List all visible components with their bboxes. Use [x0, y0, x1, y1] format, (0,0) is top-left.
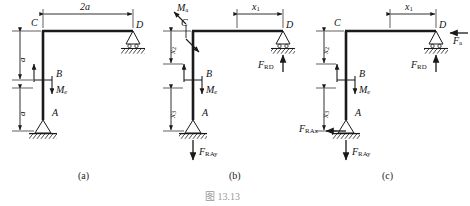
- joint-label-c-a: C: [31, 18, 38, 28]
- load-label-fray-b: FRAy: [199, 147, 217, 158]
- joint-label-a-c: A: [355, 108, 361, 118]
- dim-label-a-lower: a: [18, 112, 27, 117]
- joint-label-b-c: B: [359, 69, 365, 79]
- dim-x3-c: [316, 88, 337, 131]
- dim-label-2a: 2a: [80, 2, 90, 12]
- pin-support-a: [179, 120, 207, 139]
- joint-label-b-b: B: [206, 69, 212, 79]
- joint-label-c-c: C: [334, 18, 341, 28]
- pin-support-a: [332, 120, 360, 139]
- panel-c-graphics: [316, 9, 468, 160]
- joint-label-d-b: D: [286, 20, 293, 30]
- joint-label-d-a: D: [136, 20, 143, 30]
- joint-label-a-b: A: [202, 108, 208, 118]
- dim-x1-c: [390, 9, 436, 28]
- panel-caption-c: (c): [382, 170, 393, 181]
- load-label-fray-c: FRAy: [352, 147, 370, 158]
- load-label-frd-c: FRD: [411, 60, 427, 71]
- load-label-frd-b: FRD: [258, 60, 274, 71]
- figure-13-13: C D B A 2a a a Me C D B A Ma x1 x2 x3 Me…: [0, 0, 470, 206]
- load-label-me-a: Me: [56, 85, 67, 96]
- load-label-me-b: Me: [206, 85, 217, 96]
- panel-b-graphics: [163, 9, 295, 160]
- load-label-frax-c: FRAx: [299, 124, 318, 135]
- joint-label-d-c: D: [439, 20, 446, 30]
- joint-label-b-a: B: [56, 69, 62, 79]
- dim-label-x1-b: x1: [252, 2, 260, 13]
- figure-caption: 图 13.13: [205, 188, 240, 203]
- roller-support-d: [424, 31, 448, 54]
- panel-caption-b: (b): [229, 170, 241, 181]
- dim-a-lower: [12, 88, 34, 131]
- joint-label-a-a: A: [52, 108, 58, 118]
- roller-support-d: [121, 31, 145, 54]
- load-label-me-c: Me: [359, 85, 370, 96]
- dim-x1-b: [237, 9, 283, 28]
- load-label-fa-c: Fa: [453, 36, 462, 47]
- panel-a-graphics: [12, 9, 145, 139]
- dim-label-x2-b: x2: [168, 47, 177, 54]
- dim-label-x1-c: x1: [405, 2, 413, 13]
- load-label-ma-b: Ma: [177, 3, 188, 14]
- dim-label-x3-b: x3: [168, 111, 177, 118]
- dim-x3-b: [163, 88, 184, 131]
- dim-label-x3-c: x3: [321, 111, 330, 118]
- dim-a-upper: [12, 31, 41, 80]
- panel-caption-a: (a): [78, 170, 89, 181]
- roller-support-d: [271, 31, 295, 54]
- dim-label-x2-c: x2: [321, 47, 330, 54]
- dim-label-a-upper: a: [18, 58, 27, 63]
- pin-support-a: [29, 120, 57, 139]
- joint-label-c-b: C: [181, 18, 188, 28]
